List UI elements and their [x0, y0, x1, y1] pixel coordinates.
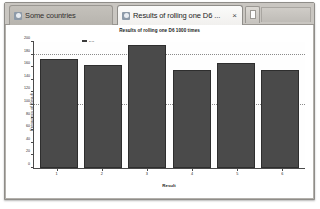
tab-results-of-rolling-one-d6[interactable]: Results of rolling one D6 ... × — [117, 5, 243, 25]
y-axis-tick-label: 140 — [24, 74, 30, 78]
y-axis-tick-label: 60 — [26, 124, 30, 128]
page-icon — [250, 10, 256, 19]
y-axis-tick-label: 80 — [26, 112, 30, 116]
new-tab-button[interactable] — [245, 6, 260, 23]
browser-window: Some countries Results of rolling one D6… — [4, 2, 315, 200]
chart-title: Results of rolling one D6 1000 times — [6, 28, 313, 33]
x-axis-tick — [102, 168, 103, 171]
x-axis-tick-label: 3 — [146, 172, 148, 176]
tab-label: Results of rolling one D6 ... — [133, 11, 229, 20]
x-axis-tick-label: 4 — [191, 172, 193, 176]
y-axis-tick-label: 100 — [24, 99, 30, 103]
bars-layer — [34, 42, 305, 168]
close-icon[interactable]: × — [231, 12, 238, 20]
bar — [217, 63, 255, 168]
bar — [84, 65, 122, 168]
bar-chart: Results of rolling one D6 1000 times D6 … — [6, 25, 313, 198]
x-axis-tick-label: 1 — [56, 172, 58, 176]
bar — [128, 45, 166, 168]
globe-icon — [14, 12, 22, 20]
x-axis-tick — [147, 168, 148, 171]
x-axis-tick — [282, 168, 283, 171]
x-axis-title: Result — [33, 183, 305, 188]
y-axis-tick-label: 20 — [26, 149, 30, 153]
x-axis-tick-label: 2 — [101, 172, 103, 176]
tab-some-countries[interactable]: Some countries — [9, 5, 113, 25]
bar — [40, 59, 78, 168]
bar — [173, 70, 211, 168]
y-axis-tick-label: 160 — [24, 61, 30, 65]
y-axis-tick-label: 180 — [24, 49, 30, 53]
x-axis-tick — [192, 168, 193, 171]
y-axis-tick-label: 200 — [24, 36, 30, 40]
globe-icon — [122, 12, 130, 20]
page-content: Results of rolling one D6 1000 times D6 … — [5, 25, 314, 199]
tab-strip: Some countries Results of rolling one D6… — [5, 3, 314, 25]
x-axis-tick — [57, 168, 58, 171]
x-axis-tick-label: 6 — [281, 172, 283, 176]
plot-area: 020406080100120140160180200 123456 — [33, 42, 305, 169]
x-axis-tick-label: 5 — [236, 172, 238, 176]
y-axis-tick-label: 120 — [24, 86, 30, 90]
tab-label: Some countries — [25, 11, 108, 20]
y-axis-tick-label: 0 — [28, 162, 30, 166]
y-axis-tick-label: 40 — [26, 137, 30, 141]
tab-strip-empty-area — [261, 7, 311, 22]
x-axis-tick — [237, 168, 238, 171]
bar — [261, 70, 299, 168]
